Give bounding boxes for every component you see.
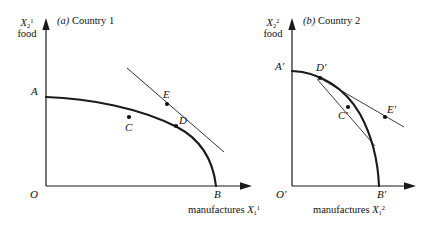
panel-a-x-axis-text: manufactures xyxy=(188,204,245,215)
panel-b-origin-label: O' xyxy=(276,189,286,200)
panel-b-point-Bprime-label: B' xyxy=(377,189,386,200)
panel-a-point-A-label: A xyxy=(31,86,38,97)
panel-a-price-line xyxy=(127,68,224,152)
panel-a-title-letter: (a) xyxy=(57,15,69,26)
panel-a-point-D-dot xyxy=(174,124,178,128)
panel-a-y-symbol-sup: 1 xyxy=(30,17,33,24)
panel-b-point-Dprime-dot xyxy=(318,76,322,80)
panel-b-point-Aprime-label: A' xyxy=(275,61,284,72)
panel-a-point-B-label: B xyxy=(214,189,221,200)
ppf-figure: X21 food (a) Country 1 A C D E B O manuf… xyxy=(0,0,428,230)
panel-a-point-E-dot xyxy=(165,102,169,106)
panel-b-y-axis-food-label: food xyxy=(256,29,290,40)
panel-a-ppf-curve xyxy=(46,97,216,186)
panel-b-point-Eprime-dot xyxy=(383,115,387,119)
panel-b-point-Cprime-label: C' xyxy=(338,110,348,121)
panel-a-axes xyxy=(42,18,252,190)
panel-b-title: (b) Country 2 xyxy=(303,16,360,27)
panel-b-x-axis-arrow xyxy=(404,182,416,189)
panel-b-point-Eprime-label: E' xyxy=(387,104,396,115)
panel-b-y-axis-caption: X22 food xyxy=(256,18,290,39)
panel-a-origin-label: O xyxy=(30,189,38,200)
panel-a-title-name: Country 1 xyxy=(72,15,114,26)
panel-b-title-name: Country 2 xyxy=(318,15,360,26)
panel-a-point-C-label: C xyxy=(125,122,132,133)
panel-a-title: (a) Country 1 xyxy=(57,16,114,27)
panel-b-price-line xyxy=(316,76,404,127)
panel-b-x-symbol-sup: 2 xyxy=(382,204,385,211)
panel-a-point-E-label: E xyxy=(163,89,170,100)
panel-b-ppf-curve xyxy=(292,71,379,186)
panel-b-x-axis-text: manufactures xyxy=(313,204,370,215)
panel-b-x-axis-symbol: X12 xyxy=(370,204,386,215)
panel-b-x-axis-caption: manufactures X12 xyxy=(313,205,385,217)
panel-b-y-symbol-sup: 2 xyxy=(276,17,279,24)
panel-a-x-axis-arrow xyxy=(240,182,252,189)
panel-b-title-letter: (b) xyxy=(303,15,315,26)
panel-a-x-axis-caption: manufactures X11 xyxy=(188,205,260,217)
panel-a-y-axis-caption: X21 food xyxy=(10,18,44,39)
panel-a-x-axis-symbol: X11 xyxy=(245,204,261,215)
panel-a-y-axis-food-label: food xyxy=(10,29,44,40)
panel-a-point-D-label: D xyxy=(179,115,187,126)
panel-a-point-C-dot xyxy=(127,115,131,119)
panel-a-x-symbol-sup: 1 xyxy=(257,204,260,211)
panel-b-point-Dprime-label: D' xyxy=(316,62,326,73)
